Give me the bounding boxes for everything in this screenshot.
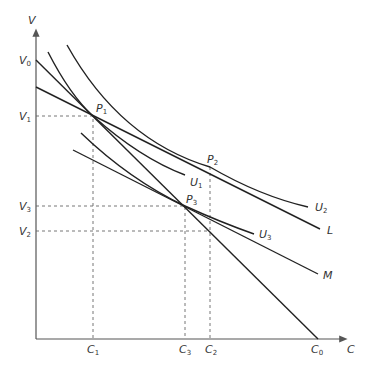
point-P2-label: P2 xyxy=(207,153,218,167)
y-axis-label: V xyxy=(28,14,37,27)
budget-line-v0-c0 xyxy=(36,60,318,339)
budget-line-L xyxy=(36,87,320,229)
tick-C0: C0 xyxy=(311,343,323,357)
tick-C3: C3 xyxy=(179,343,191,357)
diagram-canvas: V C V0 V1 V3 V2 C1 C3 C2 C0 P1 P2 P3 U1 … xyxy=(0,0,369,370)
tick-V1: V1 xyxy=(19,110,31,124)
point-P1-label: P1 xyxy=(96,102,107,116)
point-P3-label: P3 xyxy=(186,193,197,207)
line-M-label: M xyxy=(323,269,333,282)
tick-C2: C2 xyxy=(205,343,217,357)
indifference-curve-U1 xyxy=(48,52,185,175)
curve-U1-label: U1 xyxy=(190,176,203,190)
tick-V2: V2 xyxy=(19,225,31,239)
curve-U3-label: U3 xyxy=(259,228,272,242)
x-axis-label: C xyxy=(347,343,355,356)
tick-V3: V3 xyxy=(19,200,31,214)
budget-line-M xyxy=(73,150,318,274)
curve-U2-label: U2 xyxy=(315,201,328,215)
line-L-label: L xyxy=(327,224,333,237)
guide-p1 xyxy=(36,116,93,339)
tick-V0: V0 xyxy=(19,54,31,68)
tick-C1: C1 xyxy=(87,343,99,357)
guide-p3 xyxy=(36,206,185,339)
